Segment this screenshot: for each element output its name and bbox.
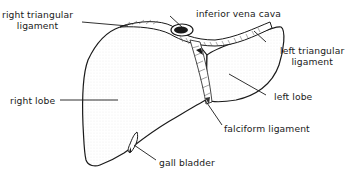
label-falciform-ligament: falciform ligament xyxy=(224,123,310,134)
label-gall-bladder: gall bladder xyxy=(159,157,215,168)
label-right-triangular-ligament: right triangular ligament xyxy=(2,9,73,31)
label-left-triangular-ligament: left triangular ligament xyxy=(280,45,344,67)
right-lobe-shape xyxy=(83,23,207,166)
liver-diagram: right triangular ligament inferior vena … xyxy=(0,0,358,182)
label-right-lobe: right lobe xyxy=(10,95,55,106)
label-left-lobe: left lobe xyxy=(274,91,312,102)
label-inferior-vena-cava: inferior vena cava xyxy=(196,8,281,19)
